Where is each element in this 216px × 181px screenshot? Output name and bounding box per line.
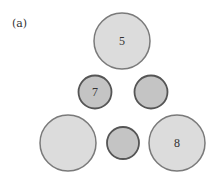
circle-bottom-right: 8	[149, 115, 205, 171]
figure-canvas: (a) 5 7 8	[0, 0, 216, 181]
circle-top-number: 5	[119, 34, 125, 48]
circle-mid-right	[135, 76, 168, 109]
circle-top: 5	[94, 13, 150, 69]
circle-bottom-right-number: 8	[174, 136, 180, 150]
circle-bottom-center	[107, 127, 139, 159]
circle-diagram: 5 7 8	[0, 0, 216, 181]
circle-mid-left-number: 7	[92, 85, 98, 99]
circle-bottom-left	[40, 115, 96, 171]
circle-mid-left: 7	[79, 76, 112, 109]
